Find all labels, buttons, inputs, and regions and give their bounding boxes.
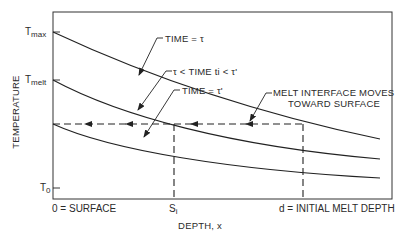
- svg-text:Si: Si: [169, 203, 178, 216]
- temperature-depth-diagram: TEMPERATURE Tmax Tmelt T0 TIME = τ τ < T…: [0, 0, 407, 241]
- label-time-tau-prime: TIME = τ': [182, 85, 223, 96]
- x-tick-si: Si: [169, 203, 178, 216]
- arrow-left-icon: [245, 121, 253, 127]
- y-tick-tmax: Tmax: [25, 26, 46, 39]
- y-tick-t0: T0: [40, 182, 60, 195]
- arrow-left-icon: [190, 121, 198, 127]
- y-tick-tmelt: Tmelt: [25, 74, 47, 87]
- svg-text:Tmelt: Tmelt: [25, 74, 47, 87]
- x-tick-d: d = INITIAL MELT DEPTH: [279, 203, 395, 214]
- leader-time-between: [138, 71, 172, 110]
- x-axis-label: DEPTH, x: [178, 220, 222, 231]
- leader-time-tau-prime: [144, 90, 180, 137]
- annotation-line1: MELT INTERFACE MOVES: [273, 87, 394, 98]
- arrow-left-icon: [84, 121, 92, 127]
- svg-text:T0: T0: [40, 182, 51, 195]
- annotation-line2: TOWARD SURFACE: [288, 98, 380, 109]
- label-time-tau: TIME = τ: [165, 33, 204, 44]
- curve-time-tau-prime: [53, 124, 380, 178]
- label-time-between: τ < TIME ti < τ': [173, 66, 237, 77]
- y-axis-label: TEMPERATURE: [10, 75, 21, 148]
- arrow-left-icon: [125, 121, 133, 127]
- svg-text:Tmax: Tmax: [25, 26, 46, 39]
- x-tick-surface: 0 = SURFACE: [52, 203, 117, 214]
